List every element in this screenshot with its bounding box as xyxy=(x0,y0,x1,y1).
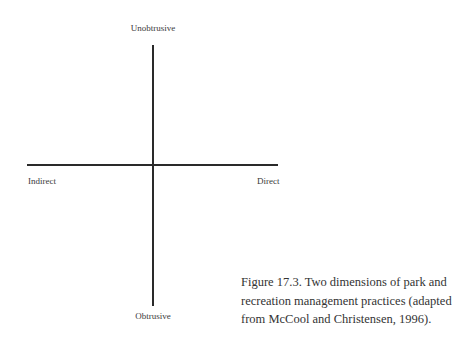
caption-line-2: recreation management practices (adapted xyxy=(241,292,451,311)
axis-label-indirect: Indirect xyxy=(28,176,56,187)
axis-label-direct: Direct xyxy=(257,176,280,187)
management-dimensions-diagram: Unobtrusive Obtrusive Indirect Direct Fi… xyxy=(0,0,467,342)
horizontal-axis-line xyxy=(27,164,278,166)
caption-line-1: Figure 17.3. Two dimensions of park and xyxy=(241,273,451,292)
figure-caption: Figure 17.3. Two dimensions of park and … xyxy=(241,273,451,329)
axis-label-unobtrusive: Unobtrusive xyxy=(131,23,176,34)
caption-line-3: from McCool and Christensen, 1996). xyxy=(241,310,451,329)
axis-label-obtrusive: Obtrusive xyxy=(135,311,171,322)
vertical-axis-line xyxy=(152,45,154,306)
